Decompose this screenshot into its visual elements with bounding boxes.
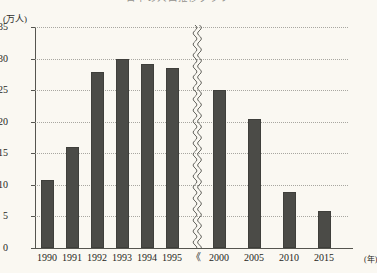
y-axis-tick-label: 5 (0, 211, 8, 221)
bar (141, 64, 154, 248)
x-axis-tick-label: 2015 (308, 252, 340, 264)
y-axis-tick-label: 15 (0, 148, 8, 158)
y-axis-tick-label: 25 (0, 85, 8, 95)
x-axis-tick-label: 2000 (203, 252, 235, 264)
bar (248, 119, 261, 248)
y-axis-tick (31, 216, 35, 217)
y-axis-tick (31, 90, 35, 91)
y-axis-tick (31, 185, 35, 186)
bar (166, 68, 179, 248)
bar (283, 192, 296, 248)
y-axis-line (35, 27, 36, 248)
x-axis-tick-label: 2010 (273, 252, 305, 264)
plot-area: 05101520253035 1990199119921993199419952… (35, 27, 348, 248)
y-axis-tick-label: 20 (0, 117, 8, 127)
bar (213, 90, 226, 248)
y-axis-tick (31, 59, 35, 60)
axis-break-squiggle (190, 25, 204, 250)
bar (116, 59, 129, 248)
x-axis-tick-label: 1995 (156, 252, 188, 264)
y-axis-tick (31, 27, 35, 28)
chart-title: 日本の人口推移グラフ (0, 0, 356, 3)
y-axis-tick-label: 30 (0, 54, 8, 64)
y-axis-tick-label: 35 (0, 22, 8, 32)
axis-break-label: 《 (191, 252, 201, 264)
x-axis-unit-label: (年) (364, 254, 377, 266)
x-axis-tick-label: 2005 (238, 252, 270, 264)
y-axis-tick (31, 153, 35, 154)
bar (41, 180, 54, 248)
y-axis-tick (31, 248, 35, 249)
bar (66, 147, 79, 248)
bar (318, 211, 331, 248)
bar (91, 72, 104, 248)
y-axis-tick-label: 0 (0, 243, 8, 253)
y-axis-tick (31, 122, 35, 123)
y-axis-tick-label: 10 (0, 180, 8, 190)
